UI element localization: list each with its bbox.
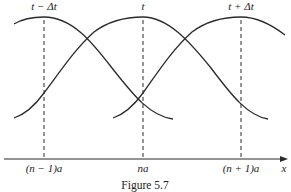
position-label-n: na: [138, 162, 150, 174]
time-label-t: t: [141, 0, 145, 12]
wave-curve-t: [14, 17, 268, 119]
wave-figure: t − Δt t t + Δt (n − 1)a na (n + 1)a x F…: [0, 0, 291, 192]
time-label-t-minus-dt: t − Δt: [31, 0, 57, 12]
wave-curve-t-plus-dt: [113, 17, 285, 118]
position-label-n-plus-1: (n + 1)a: [223, 162, 260, 175]
axis-label-x: x: [281, 162, 287, 174]
position-label-n-minus-1: (n − 1)a: [26, 162, 63, 175]
time-label-t-plus-dt: t + Δt: [228, 0, 254, 12]
figure-caption: Figure 5.7: [121, 179, 169, 192]
